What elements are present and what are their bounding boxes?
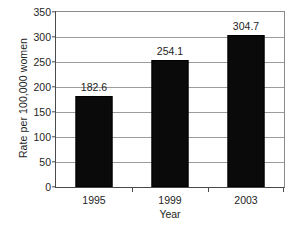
y-tick-label: 250 [11,56,51,68]
x-tick-label: 1999 [158,194,181,206]
bar-value-label: 182.6 [81,81,107,93]
y-tick-label: 300 [11,31,51,43]
x-tick-mark [283,187,284,192]
bar-slot: 254.1 [132,12,208,187]
y-tick-label: 100 [11,131,51,143]
x-tick-mark [208,187,209,192]
y-tick-label: 50 [11,156,51,168]
bar-value-label: 304.7 [233,20,259,32]
bar-value-label: 254.1 [157,45,183,57]
bar [152,60,189,187]
y-tick-label: 150 [11,106,51,118]
y-tick-label: 350 [11,6,51,18]
bar [228,35,265,187]
y-tick-label: 200 [11,81,51,93]
x-tick-label: 1995 [82,194,105,206]
bar-slot: 182.6 [56,12,132,187]
bar-series: 182.6254.1304.7 [56,12,284,187]
plot-area: 050100150200250300350 182.6254.1304.7 19… [55,11,285,188]
x-tick-label: 2003 [234,194,257,206]
bar-chart-figure: Rate per 100,000 women 05010015020025030… [0,0,296,228]
bar-slot: 304.7 [208,12,284,187]
x-axis-title: Year [55,208,285,220]
y-tick-label: 0 [11,181,51,193]
bar [76,96,113,187]
x-tick-mark [132,187,133,192]
